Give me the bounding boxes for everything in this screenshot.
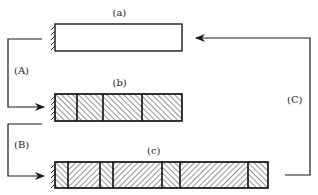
bar-segment — [180, 162, 248, 188]
bar-label-b: (b) — [113, 77, 127, 88]
bar-b — [51, 94, 182, 121]
arrow-label-B: (B) — [14, 139, 29, 150]
bar-segment — [113, 162, 162, 188]
diagram-canvas: (A)(B)(C)(a)(b)(c) — [0, 0, 318, 195]
bar-segment — [103, 94, 142, 121]
bar-label-c: (c) — [147, 145, 161, 156]
bar-segment — [55, 94, 77, 121]
arrow-path — [196, 38, 310, 175]
bar-segment — [77, 94, 103, 121]
arrow-path — [8, 124, 44, 176]
arrow-C — [196, 38, 310, 175]
labels-layer: (A)(B)(C)(a)(b)(c) — [14, 7, 303, 156]
bars-layer — [51, 24, 268, 188]
bar-segment — [68, 162, 100, 188]
bar-a — [51, 24, 182, 51]
bar-segment — [142, 94, 182, 121]
bar-segment — [55, 162, 68, 188]
arrow-B — [8, 124, 44, 176]
bar-segment — [248, 162, 268, 188]
bar-outline — [55, 24, 182, 51]
arrow-label-C: (C) — [287, 94, 303, 105]
bar-c — [51, 162, 268, 188]
arrow-label-A: (A) — [14, 65, 29, 76]
bar-segment — [162, 162, 180, 188]
bar-segment — [100, 162, 113, 188]
bar-label-a: (a) — [113, 7, 127, 18]
